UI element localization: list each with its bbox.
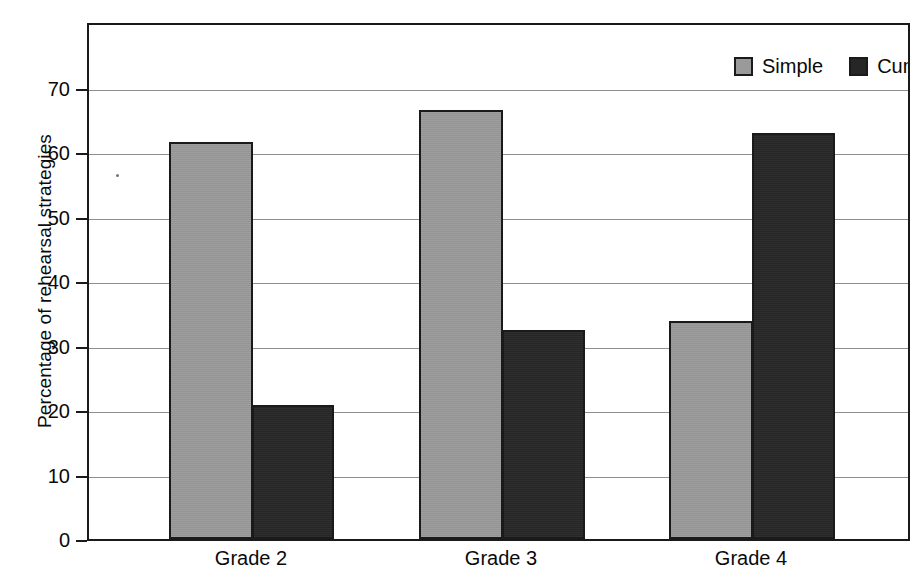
- x-axis-label-2: Grade 3: [411, 547, 591, 570]
- bar-grade-3-cumulative: [502, 330, 585, 539]
- y-tick-label: 60: [12, 143, 70, 163]
- y-tick-label: 0: [12, 530, 70, 550]
- bar-grade-4-simple: [669, 321, 753, 539]
- x-axis-label-3: Grade 4: [661, 547, 841, 570]
- y-tick-mark: [76, 411, 87, 413]
- bar-grade-2-simple: [169, 142, 253, 539]
- x-axis-label-1: Grade 2: [161, 547, 341, 570]
- y-tick-label: 50: [12, 208, 70, 228]
- y-tick-label: 70: [12, 79, 70, 99]
- y-tick-mark: [76, 540, 87, 542]
- scan-artifact-speck: [116, 174, 119, 177]
- bar-grade-3-simple: [419, 110, 503, 539]
- bar-grade-2-cumulative: [252, 405, 334, 539]
- y-tick-mark: [76, 282, 87, 284]
- bar-chart: Percentage of rehearsal strategies 70605…: [0, 0, 921, 574]
- legend-swatch-simple-icon: [734, 57, 753, 76]
- plot-area: Simple Cumulative: [87, 23, 910, 541]
- legend-label-simple: Simple: [762, 55, 823, 78]
- y-tick-mark: [76, 347, 87, 349]
- y-tick-mark: [76, 218, 87, 220]
- y-tick-mark: [76, 89, 87, 91]
- legend-item-cumulative: Cumulative: [849, 55, 910, 78]
- y-tick-label: 20: [12, 401, 70, 421]
- legend-item-simple: Simple: [734, 55, 823, 78]
- gridline: [89, 90, 908, 91]
- legend-swatch-cumulative-icon: [849, 57, 868, 76]
- legend: Simple Cumulative: [734, 55, 910, 78]
- y-tick-label: 40: [12, 272, 70, 292]
- legend-label-cumulative: Cumulative: [877, 55, 910, 78]
- y-tick-label: 30: [12, 337, 70, 357]
- y-tick-mark: [76, 476, 87, 478]
- y-tick-label: 10: [12, 466, 70, 486]
- y-tick-mark: [76, 153, 87, 155]
- bar-grade-4-cumulative: [752, 133, 835, 539]
